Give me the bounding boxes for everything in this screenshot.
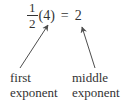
middle-exponent-arrow (82, 27, 95, 68)
first-exponent-label: first exponent (10, 70, 58, 100)
first-exponent-arrow (20, 25, 48, 68)
first-exponent-label-line2: exponent (10, 85, 58, 100)
annotated-equation-figure: 1 2 (4) = 2 first exponent middle expone… (0, 0, 136, 104)
middle-exponent-label-line1: middle (72, 70, 120, 85)
first-exponent-label-line1: first (10, 70, 58, 85)
middle-exponent-label: middle exponent (72, 70, 120, 100)
middle-exponent-label-line2: exponent (72, 85, 120, 100)
